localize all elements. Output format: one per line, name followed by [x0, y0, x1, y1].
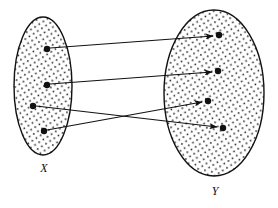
set-x-ellipse[interactable] — [14, 17, 72, 155]
set-x-element-4[interactable] — [41, 128, 47, 134]
set-y-element-3[interactable] — [205, 98, 211, 104]
set-y-element-2[interactable] — [215, 68, 221, 74]
set-x-element-1[interactable] — [44, 46, 50, 52]
set-x-group[interactable]: X — [14, 17, 72, 175]
set-x-label: X — [39, 161, 48, 175]
set-y-element-4[interactable] — [220, 125, 226, 131]
set-x-element-2[interactable] — [44, 82, 50, 88]
set-y-element-1[interactable] — [216, 32, 222, 38]
set-y-label: Y — [212, 184, 220, 198]
figure-root: X Y — [0, 0, 278, 208]
set-mapping-diagram: X Y — [0, 0, 278, 208]
set-y-ellipse[interactable] — [164, 10, 264, 176]
set-x-element-3[interactable] — [30, 103, 36, 109]
